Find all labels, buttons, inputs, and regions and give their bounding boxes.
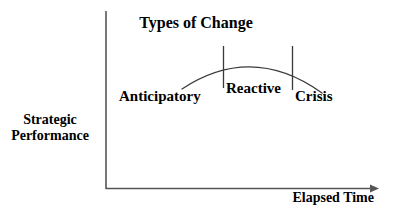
stage-label-reactive: Reactive (226, 80, 281, 97)
stage-label-crisis: Crisis (295, 88, 333, 105)
chart-title: Types of Change (139, 14, 253, 32)
x-axis-label: Elapsed Time (292, 190, 374, 206)
types-of-change-diagram: Types of Change Anticipatory Reactive Cr… (0, 0, 395, 212)
y-axis-label: Strategic Performance (11, 112, 89, 143)
y-axis-label-line-2: Performance (11, 128, 89, 144)
stage-label-anticipatory: Anticipatory (119, 88, 201, 105)
y-axis-label-line-1: Strategic (11, 112, 89, 128)
